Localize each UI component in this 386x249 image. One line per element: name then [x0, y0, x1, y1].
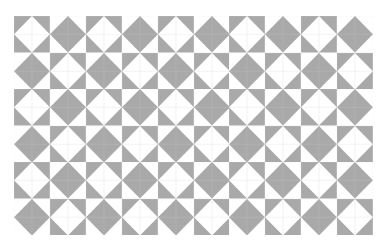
tile-grey-diamond [14, 53, 50, 90]
tile-grey-diamond [229, 53, 265, 90]
tile-grey-diamond [301, 53, 337, 90]
tile-white-diamond [301, 89, 337, 126]
tile-white-diamond [229, 16, 265, 53]
tile-white-diamond [337, 199, 373, 236]
tile-grey-diamond [14, 126, 50, 163]
tile-grey-diamond [265, 89, 301, 126]
tile-grey-diamond [337, 162, 373, 199]
tile-grey-diamond [194, 162, 230, 199]
tile-grey-diamond [50, 162, 86, 199]
tile-white-diamond [158, 162, 194, 199]
tile-grey-diamond [301, 126, 337, 163]
tile-grey-diamond [86, 126, 122, 163]
tile-white-diamond [194, 199, 230, 236]
tile-white-diamond [229, 162, 265, 199]
tile-grey-diamond [158, 126, 194, 163]
tile-white-diamond [158, 89, 194, 126]
tile-grey-diamond [158, 53, 194, 90]
diamond-tile-pattern [14, 16, 373, 235]
tile-grey-diamond [337, 16, 373, 53]
tile-white-diamond [50, 126, 86, 163]
tile-grey-diamond [229, 126, 265, 163]
tile-grey-diamond [14, 199, 50, 236]
tile-grey-diamond [194, 16, 230, 53]
tile-grey-diamond [158, 199, 194, 236]
tile-white-diamond [50, 53, 86, 90]
tile-white-diamond [158, 16, 194, 53]
tile-white-diamond [194, 126, 230, 163]
tile-grey-diamond [194, 89, 230, 126]
tile-white-diamond [265, 53, 301, 90]
tile-white-diamond [337, 126, 373, 163]
tile-white-diamond [301, 162, 337, 199]
tile-white-diamond [14, 162, 50, 199]
tile-grey-diamond [337, 89, 373, 126]
tile-grey-diamond [122, 16, 158, 53]
tile-grey-diamond [229, 199, 265, 236]
tile-white-diamond [14, 89, 50, 126]
tile-white-diamond [86, 16, 122, 53]
tile-white-diamond [265, 199, 301, 236]
tile-white-diamond [50, 199, 86, 236]
tile-grey-diamond [50, 16, 86, 53]
tile-grey-diamond [301, 199, 337, 236]
tile-white-diamond [86, 162, 122, 199]
tile-white-diamond [337, 53, 373, 90]
tile-grey-diamond [265, 16, 301, 53]
tile-white-diamond [122, 53, 158, 90]
tile-white-diamond [14, 16, 50, 53]
tile-white-diamond [194, 53, 230, 90]
tile-white-diamond [229, 89, 265, 126]
tile-white-diamond [86, 89, 122, 126]
tile-grey-diamond [265, 162, 301, 199]
tile-white-diamond [122, 199, 158, 236]
tile-grey-diamond [50, 89, 86, 126]
tile-white-diamond [301, 16, 337, 53]
tile-grey-diamond [86, 53, 122, 90]
tile-grey-diamond [86, 199, 122, 236]
tile-grey-diamond [122, 162, 158, 199]
tile-grey-diamond [122, 89, 158, 126]
tile-white-diamond [265, 126, 301, 163]
tile-white-diamond [122, 126, 158, 163]
